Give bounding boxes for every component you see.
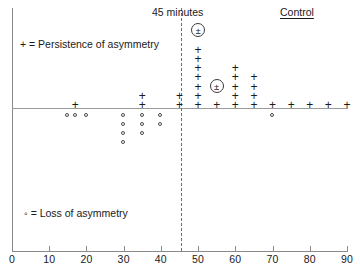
- x-tick-label-60: 60: [222, 253, 248, 265]
- legend-persistence: + = Persistence of asymmetry: [20, 38, 159, 51]
- marker-plus-x50-6: [191, 43, 205, 57]
- x-tick-30: [124, 246, 125, 252]
- scatter-plot: 45 minutes Control + = Persistence of as…: [0, 0, 360, 266]
- control-label: Control: [280, 6, 314, 18]
- x-tick-0: [12, 246, 13, 252]
- x-tick-label-80: 80: [297, 253, 323, 265]
- marker-plus-x90-0: [340, 98, 354, 112]
- marker-plus-x60-4: [228, 61, 242, 75]
- x-tick-40: [161, 246, 162, 252]
- marker-circle-x20-0: [79, 108, 93, 122]
- y-axis-line: [12, 8, 13, 252]
- x-tick-20: [86, 246, 87, 252]
- legend-loss: ◦ = Loss of asymmetry: [24, 207, 128, 220]
- x-tick-label-0: 0: [0, 253, 25, 265]
- x-tick-label-90: 90: [334, 253, 360, 265]
- marker-plusminus-x50: [190, 23, 206, 39]
- x-tick-label-20: 20: [73, 253, 99, 265]
- x-tick-label-30: 30: [111, 253, 137, 265]
- x-axis-line: [12, 251, 348, 252]
- marker-circle-x70-0: [266, 108, 280, 122]
- divider-label: 45 minutes: [152, 6, 203, 18]
- x-tick-10: [49, 246, 50, 252]
- marker-plus-x80-0: [303, 98, 317, 112]
- x-tick-80: [310, 246, 311, 252]
- x-tick-70: [273, 246, 274, 252]
- marker-plus-x65-3: [247, 70, 261, 84]
- x-tick-90: [347, 246, 348, 252]
- marker-plusminus-x55: [209, 79, 225, 95]
- x-tick-label-10: 10: [36, 253, 62, 265]
- x-tick-label-70: 70: [260, 253, 286, 265]
- marker-circle-x40-1: [154, 117, 168, 131]
- x-tick-50: [198, 246, 199, 252]
- x-tick-label-40: 40: [148, 253, 174, 265]
- x-tick-label-50: 50: [185, 253, 211, 265]
- marker-circle-x30-3: [117, 136, 131, 150]
- marker-plus-x85-0: [321, 98, 335, 112]
- divider-line-45-minutes: [181, 8, 182, 251]
- marker-plus-x55-0: [210, 98, 224, 112]
- marker-plus-x35-1: [135, 89, 149, 103]
- marker-circle-x35-2: [135, 126, 149, 140]
- marker-plus-x75-0: [284, 98, 298, 112]
- marker-plus-x45-1: [173, 89, 187, 103]
- x-tick-60: [235, 246, 236, 252]
